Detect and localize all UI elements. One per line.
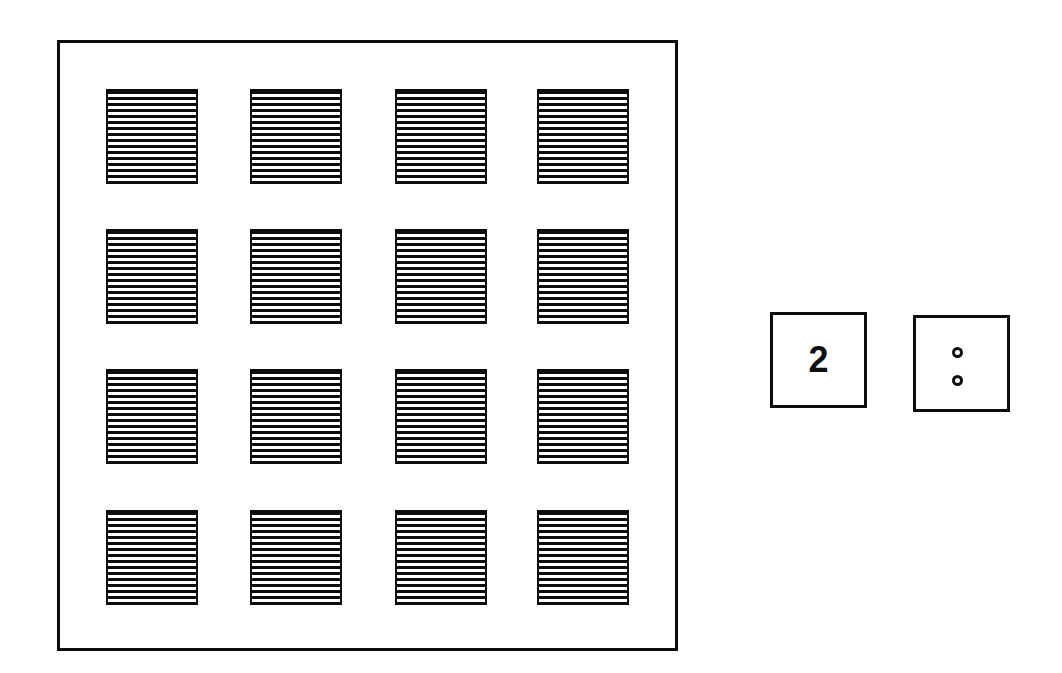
grid-cell-r1c4	[537, 89, 629, 184]
grid-cell-r1c3	[395, 89, 487, 184]
legend-number-label: 2	[773, 315, 864, 405]
grid-cell-r3c4	[537, 369, 629, 464]
grid-cell-r1c1	[106, 89, 198, 184]
legend-dot-upper-icon	[952, 347, 963, 358]
grid-cell-r3c1	[106, 369, 198, 464]
grid-cell-r1c2	[250, 89, 342, 184]
legend-dot-lower-icon	[952, 375, 963, 386]
panel-frame	[57, 40, 678, 651]
cell-grid	[60, 43, 681, 654]
grid-cell-r2c3	[395, 229, 487, 324]
grid-cell-r4c4	[537, 510, 629, 605]
legend-number-box: 2	[770, 312, 867, 408]
grid-cell-r3c2	[250, 369, 342, 464]
grid-cell-r4c3	[395, 510, 487, 605]
grid-cell-r3c3	[395, 369, 487, 464]
figure-canvas: 2	[0, 0, 1062, 673]
grid-cell-r2c4	[537, 229, 629, 324]
grid-cell-r2c2	[250, 229, 342, 324]
grid-cell-r4c1	[106, 510, 198, 605]
legend-dots-box	[913, 315, 1010, 412]
grid-cell-r4c2	[250, 510, 342, 605]
grid-cell-r2c1	[106, 229, 198, 324]
